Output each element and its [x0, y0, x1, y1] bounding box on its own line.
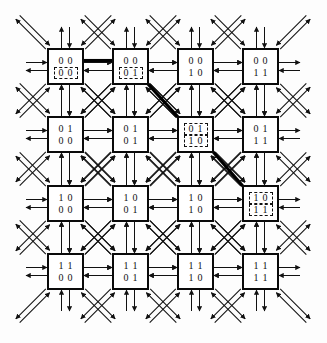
bit: 0: [196, 205, 205, 215]
bit: 0: [122, 68, 131, 78]
node-bottom-bits: 01: [120, 204, 142, 216]
bit: 1: [57, 193, 66, 203]
node-top-bits: 11: [185, 260, 207, 272]
bit: 1: [252, 193, 261, 203]
bit: 1: [252, 273, 261, 283]
node-bottom-bits: 00: [54, 67, 78, 79]
bit: 1: [131, 261, 140, 271]
bit: 0: [57, 56, 66, 66]
node-n10[interactable]: 0100: [47, 116, 84, 153]
node-top-bits: 10: [185, 192, 207, 204]
bit: 0: [57, 205, 66, 215]
bit: 1: [66, 124, 75, 134]
bit: 0: [66, 205, 75, 215]
bit: 1: [252, 261, 261, 271]
bit: 1: [261, 136, 270, 146]
node-n22[interactable]: 1010: [177, 185, 214, 222]
node-n00[interactable]: 0000: [47, 48, 84, 85]
node-n20[interactable]: 1000: [47, 185, 84, 222]
bit: 0: [66, 273, 75, 283]
bit: 1: [187, 136, 196, 146]
bit: 0: [196, 193, 205, 203]
node-top-bits: 00: [185, 55, 207, 67]
bit: 0: [187, 56, 196, 66]
node-n11[interactable]: 0101: [112, 116, 149, 153]
bit: 0: [196, 56, 205, 66]
node-n03[interactable]: 0011: [242, 48, 279, 85]
bit: 0: [261, 193, 270, 203]
node-n32[interactable]: 1110: [177, 253, 214, 290]
bit: 1: [261, 68, 270, 78]
highlighted-hop: [149, 85, 177, 116]
node-n33[interactable]: 1111: [242, 253, 279, 290]
bit: 1: [252, 205, 261, 215]
node-n23[interactable]: 1011: [242, 185, 279, 222]
bit: 1: [131, 273, 140, 283]
bit: 1: [187, 273, 196, 283]
bit: 1: [261, 273, 270, 283]
bit: 1: [252, 68, 261, 78]
node-top-bits: 01: [120, 123, 142, 135]
bit: 1: [196, 261, 205, 271]
bit: 0: [131, 193, 140, 203]
node-top-bits: 00: [250, 55, 272, 67]
node-top-bits: 10: [55, 192, 77, 204]
node-n13[interactable]: 0111: [242, 116, 279, 153]
bit: 1: [66, 261, 75, 271]
node-top-bits: 01: [55, 123, 77, 135]
bit: 0: [122, 136, 131, 146]
node-bottom-bits: 01: [120, 135, 142, 147]
bit: 0: [196, 68, 205, 78]
bit: 1: [57, 261, 66, 271]
bit: 1: [122, 261, 131, 271]
bit: 1: [131, 136, 140, 146]
network-topology-diagram: 0000000100100011010001010110011110001001…: [0, 0, 327, 343]
node-bottom-bits: 11: [250, 135, 272, 147]
node-bottom-bits: 01: [120, 272, 142, 284]
node-top-bits: 01: [250, 123, 272, 135]
bit: 0: [66, 193, 75, 203]
bit: 1: [261, 205, 270, 215]
bit: 0: [122, 56, 131, 66]
node-n01[interactable]: 0001: [112, 48, 149, 85]
bit: 1: [196, 124, 205, 134]
bit: 0: [57, 136, 66, 146]
node-n31[interactable]: 1101: [112, 253, 149, 290]
node-top-bits: 10: [120, 192, 142, 204]
bit: 1: [252, 136, 261, 146]
bit: 1: [261, 124, 270, 134]
bit: 0: [252, 56, 261, 66]
node-bottom-bits: 10: [184, 135, 208, 147]
bit: 0: [252, 124, 261, 134]
node-top-bits: 11: [120, 260, 142, 272]
node-bottom-bits: 10: [185, 67, 207, 79]
node-bottom-bits: 11: [249, 204, 273, 216]
bit: 0: [66, 68, 75, 78]
bit: 1: [187, 261, 196, 271]
bit: 1: [131, 205, 140, 215]
bit: 0: [196, 136, 205, 146]
bit: 0: [196, 273, 205, 283]
node-bottom-bits: 11: [250, 67, 272, 79]
node-bottom-bits: 01: [119, 67, 143, 79]
bit: 0: [66, 136, 75, 146]
bit: 0: [57, 124, 66, 134]
node-bottom-bits: 10: [185, 272, 207, 284]
node-n30[interactable]: 1100: [47, 253, 84, 290]
bit: 1: [187, 68, 196, 78]
node-bottom-bits: 00: [55, 135, 77, 147]
node-top-bits: 11: [250, 260, 272, 272]
bit: 1: [261, 261, 270, 271]
node-top-bits: 10: [249, 192, 273, 204]
node-n21[interactable]: 1001: [112, 185, 149, 222]
node-n12[interactable]: 0110: [177, 116, 214, 153]
bit: 0: [66, 56, 75, 66]
bit: 0: [57, 68, 66, 78]
bit: 0: [187, 124, 196, 134]
bit: 0: [261, 56, 270, 66]
node-top-bits: 11: [55, 260, 77, 272]
bit: 1: [187, 193, 196, 203]
node-top-bits: 00: [55, 55, 77, 67]
node-bottom-bits: 00: [55, 272, 77, 284]
node-n02[interactable]: 0010: [177, 48, 214, 85]
